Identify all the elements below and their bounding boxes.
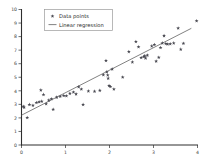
data-point-marker [28, 103, 32, 107]
data-point-marker [145, 53, 149, 57]
data-point-marker [93, 89, 97, 93]
y-tick-label: 9 [14, 21, 17, 26]
data-point-marker [68, 92, 72, 96]
data-point-marker [81, 103, 85, 107]
data-point-marker [137, 45, 141, 49]
data-point-marker [112, 87, 116, 91]
data-point-marker [98, 89, 102, 93]
data-point-marker [157, 55, 161, 59]
data-point-marker [104, 59, 108, 63]
data-point-marker [37, 100, 41, 104]
y-tick-label: 0 [14, 143, 17, 148]
data-point-marker [42, 93, 46, 97]
data-point-marker [182, 41, 186, 45]
y-tick-label: 5 [14, 75, 17, 80]
chart-canvas: 012345678910 01234 Data points Linear re… [0, 0, 210, 167]
x-tick-label: 4 [196, 150, 199, 155]
data-point-marker [159, 46, 163, 50]
data-point-marker [55, 95, 59, 99]
scatter-plot-figure: 012345678910 01234 Data points Linear re… [0, 0, 210, 167]
x-tick-label: 1 [64, 150, 67, 155]
data-point-marker [51, 108, 55, 112]
data-point-marker [172, 41, 176, 45]
data-point-marker [134, 40, 138, 44]
data-point-marker [154, 59, 158, 63]
x-tick-label: 2 [108, 150, 111, 155]
legend-label-data-points: Data points [59, 13, 89, 20]
y-axis-ticks: 012345678910 [11, 7, 21, 148]
data-point-marker [150, 44, 154, 48]
data-point-marker [130, 60, 134, 64]
data-point-marker [105, 70, 109, 74]
data-point-marker [31, 103, 35, 107]
x-tick-label: 3 [152, 150, 155, 155]
data-point-marker [72, 90, 76, 94]
x-tick-label: 0 [20, 150, 23, 155]
data-point-marker [106, 73, 110, 77]
data-point-marker [168, 42, 172, 46]
data-point-marker [35, 101, 39, 105]
y-tick-label: 7 [14, 48, 17, 53]
data-point-marker [162, 34, 166, 38]
x-axis-ticks: 01234 [20, 145, 199, 155]
data-point-marker [195, 19, 199, 23]
data-point-marker [176, 26, 180, 30]
data-point-marker [64, 94, 68, 98]
legend-label-linear-regression: Linear regression [59, 22, 104, 29]
y-tick-label: 6 [14, 61, 17, 66]
data-point-marker [110, 67, 114, 71]
data-point-marker [127, 50, 131, 54]
data-point-marker [74, 92, 78, 96]
data-point-marker [39, 88, 43, 92]
legend: Data points Linear regression [45, 10, 113, 31]
y-tick-label: 1 [14, 129, 17, 134]
data-point-marker [40, 99, 44, 103]
y-tick-label: 3 [14, 102, 17, 107]
data-point-marker [25, 116, 29, 120]
data-point-marker [79, 87, 83, 91]
data-point-marker [166, 42, 170, 46]
data-point-marker [179, 47, 183, 51]
data-point-marker [106, 76, 110, 80]
y-tick-label: 10 [11, 7, 17, 12]
data-point-marker [121, 75, 125, 79]
data-point-marker [86, 89, 90, 93]
data-point-marker [101, 73, 105, 77]
y-tick-label: 8 [14, 34, 17, 39]
y-tick-label: 4 [14, 89, 17, 94]
y-tick-label: 2 [14, 116, 17, 121]
data-points-series [21, 19, 198, 119]
